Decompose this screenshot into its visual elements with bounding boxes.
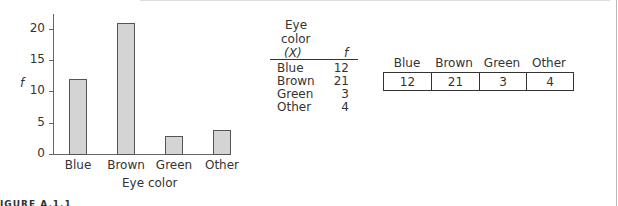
x-tick-label: Other	[198, 158, 246, 172]
box-header: Brown	[430, 56, 478, 70]
y-axis-label: f	[20, 76, 24, 90]
header-x-line2: color	[281, 32, 311, 46]
bar-brown	[117, 23, 135, 155]
bar-blue	[69, 79, 87, 155]
header-rule	[270, 59, 358, 60]
header-x-line1: Eye	[285, 18, 307, 32]
row-f: 12	[327, 61, 349, 75]
header-x-line3: (X)	[284, 46, 302, 60]
box-cell: 12	[383, 72, 432, 91]
row-f: 3	[327, 87, 349, 101]
row-x: Blue	[277, 61, 304, 75]
header-f: f	[344, 46, 348, 60]
bar-green	[165, 136, 183, 155]
figure-caption: IGURE A.1.1	[0, 199, 72, 206]
right-border	[616, 0, 617, 206]
box-header: Other	[525, 56, 573, 70]
y-tick-label: 15	[25, 52, 45, 66]
row-f: 21	[327, 74, 349, 88]
box-header: Blue	[383, 56, 431, 70]
row-x: Brown	[277, 74, 315, 88]
box-cell: 3	[479, 72, 527, 91]
x-tick-label: Green	[150, 158, 198, 172]
row-x: Other	[277, 100, 311, 114]
x-tick-label: Blue	[54, 158, 102, 172]
x-tick-label: Brown	[102, 158, 150, 172]
row-x: Green	[277, 87, 313, 101]
y-tick	[49, 123, 54, 124]
y-tick-label: 5	[25, 115, 45, 129]
x-axis-label: Eye color	[122, 176, 177, 190]
bar-other	[213, 130, 231, 155]
y-tick	[49, 60, 54, 61]
y-tick-label: 10	[25, 83, 45, 97]
y-tick	[49, 29, 54, 30]
box-cell: 21	[431, 72, 480, 91]
y-axis	[53, 14, 54, 154]
row-f: 4	[327, 100, 349, 114]
y-tick-label: 20	[25, 21, 45, 35]
y-tick	[49, 91, 54, 92]
box-cell: 4	[526, 72, 574, 91]
y-tick-label: 0	[25, 146, 45, 160]
y-tick	[49, 154, 54, 155]
box-header: Green	[478, 56, 526, 70]
top-border	[140, 0, 610, 1]
